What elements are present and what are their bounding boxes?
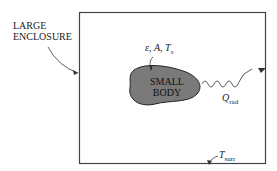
body-properties: ε, A, Ts <box>145 42 173 58</box>
enclosure-label-line2: ENCLOSURE <box>13 31 72 42</box>
body-label: SMALL BODY <box>147 76 187 98</box>
enclosure-label-line1: LARGE <box>13 20 72 31</box>
radiation-label: Qrad <box>222 92 238 108</box>
radiation-wave <box>202 69 252 87</box>
properties-sub: s <box>171 48 174 56</box>
radiation-sub: rad <box>229 98 238 106</box>
enclosure-arrow <box>48 47 78 73</box>
body-label-line1: SMALL <box>147 76 187 87</box>
surroundings-label: Tsurr <box>219 149 235 165</box>
radiation-symbol: Q <box>222 92 229 103</box>
enclosure-label: LARGE ENCLOSURE <box>13 20 72 42</box>
body-label-line2: BODY <box>147 87 187 98</box>
surr-sub: surr <box>225 155 236 163</box>
properties-text: ε, A, T <box>145 42 171 53</box>
